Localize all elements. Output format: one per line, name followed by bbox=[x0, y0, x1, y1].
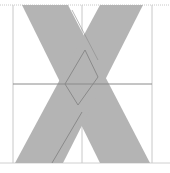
glyph-x-svg bbox=[0, 0, 170, 173]
glyph-diagram bbox=[0, 0, 170, 173]
